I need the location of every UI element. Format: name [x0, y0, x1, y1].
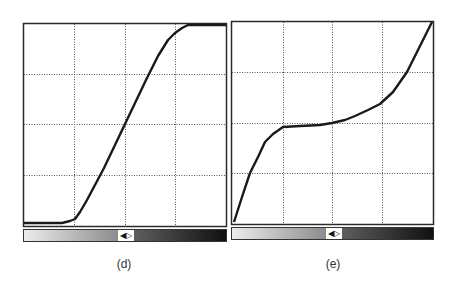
arrow-right-icon: ▷: [334, 228, 340, 239]
gradient-bar-right-e: [342, 228, 433, 239]
curve-plot-e[interactable]: [0, 0, 453, 230]
gradient-bar-e[interactable]: ◀ ▷: [231, 227, 434, 240]
slider-handle-e[interactable]: ◀ ▷: [326, 228, 342, 239]
panel-caption-e: (e): [313, 257, 353, 271]
panel-e: ◀ ▷ (e): [0, 0, 453, 287]
gradient-bar-left-e: [232, 228, 326, 239]
